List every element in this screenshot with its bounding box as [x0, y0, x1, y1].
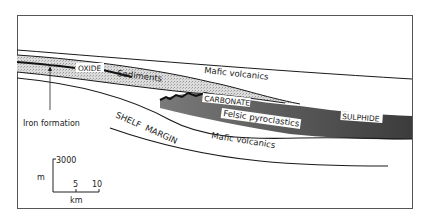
label-iron-formation: Iron formation — [23, 119, 80, 128]
scale-vertical-value: 3000 — [56, 156, 76, 165]
scale-tick-5: 5 — [73, 180, 78, 189]
scale-tick-10: 10 — [92, 180, 102, 189]
cross-section-diagram: OXIDE Sediments Mafic volcanics CARBONAT… — [0, 0, 424, 220]
scale-horizontal-unit: km — [70, 196, 83, 205]
label-oxide: OXIDE — [78, 64, 102, 73]
scale-vertical-unit: m — [37, 173, 45, 182]
